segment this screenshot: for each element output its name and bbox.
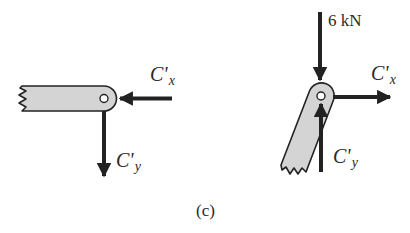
- right-cy-subscript: y: [352, 155, 358, 170]
- right-member: [281, 83, 334, 174]
- left-cy-subscript: y: [135, 159, 141, 174]
- diagram-drawing: [0, 0, 410, 233]
- left-cx-label: C'x: [150, 64, 175, 88]
- left-cx-symbol: C': [150, 63, 168, 85]
- free-body-diagram-figure: C'x C'y 6 kN C'x C'y (c): [0, 0, 410, 233]
- right-pin-icon: [317, 92, 325, 100]
- right-cx-label: C'x: [371, 63, 396, 87]
- right-cy-label: C'y: [333, 146, 358, 170]
- left-member: [19, 86, 117, 111]
- figure-caption: (c): [196, 202, 215, 219]
- left-cy-symbol: C': [116, 149, 134, 171]
- left-cx-subscript: x: [169, 73, 175, 88]
- load-label: 6 kN: [328, 12, 362, 29]
- left-pin-icon: [100, 95, 108, 103]
- left-cy-label: C'y: [116, 150, 141, 174]
- right-cx-subscript: x: [390, 72, 396, 87]
- right-cy-symbol: C': [333, 145, 351, 167]
- right-cx-symbol: C': [371, 62, 389, 84]
